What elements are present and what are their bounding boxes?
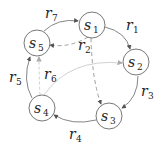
- label-r2: r 2: [78, 37, 91, 55]
- svg-text:s: s: [29, 35, 36, 51]
- svg-text:s: s: [128, 54, 135, 70]
- label-r3: r 3: [141, 83, 154, 101]
- node-s1: s 1: [79, 12, 105, 38]
- node-s3: s 3: [96, 103, 122, 129]
- edge-r4: [54, 115, 96, 122]
- svg-text:7: 7: [52, 13, 58, 23]
- svg-text:s: s: [101, 108, 108, 124]
- svg-text:2: 2: [137, 62, 143, 72]
- node-s5: s 5: [24, 30, 50, 56]
- svg-text:1: 1: [133, 25, 139, 35]
- svg-text:3: 3: [110, 116, 116, 126]
- svg-text:5: 5: [16, 77, 22, 87]
- edge-r7: [44, 20, 78, 31]
- label-r5: r 5: [9, 69, 22, 87]
- edge-r3: [122, 76, 138, 108]
- svg-text:3: 3: [148, 91, 154, 101]
- label-r6: r 6: [44, 66, 57, 84]
- svg-text:2: 2: [85, 45, 91, 55]
- svg-text:s: s: [84, 17, 91, 33]
- edge-r2-to-s3: [91, 38, 101, 104]
- state-transition-diagram: s 1 s 2 s 3 s 4 s 5 r 7 r 1 r 2 r 3 r 4: [0, 0, 161, 150]
- svg-text:6: 6: [51, 74, 57, 84]
- edge-r6-to-s5: [39, 57, 40, 95]
- svg-text:5: 5: [38, 43, 44, 53]
- label-r7: r 7: [45, 5, 58, 23]
- svg-text:4: 4: [76, 134, 82, 144]
- label-r4: r 4: [69, 126, 82, 144]
- label-r1: r 1: [126, 17, 139, 35]
- edge-r5: [26, 57, 32, 98]
- node-s4: s 4: [29, 95, 55, 121]
- svg-text:4: 4: [43, 108, 49, 118]
- node-s2: s 2: [123, 49, 149, 75]
- svg-text:s: s: [34, 100, 41, 116]
- svg-text:1: 1: [93, 25, 99, 35]
